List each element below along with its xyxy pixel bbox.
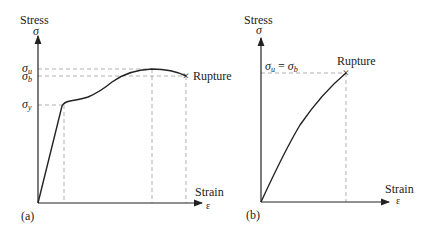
- sigma-u-equals-sigma-b-label: σu = σb: [265, 59, 298, 74]
- x-axis-symbol-a: ε: [206, 200, 210, 211]
- panel-a-tag: (a): [21, 209, 34, 223]
- rupture-label-b: Rupture: [337, 54, 376, 68]
- guide-lines-a: [38, 69, 186, 203]
- rupture-marker-b: ×: [343, 66, 350, 80]
- stress-strain-curve-a: [38, 69, 186, 203]
- sigma-y-label: σy: [22, 97, 32, 112]
- panel-b-tag: (b): [246, 208, 260, 222]
- guide-lines-b: [261, 73, 346, 202]
- rupture-marker-a: ×: [183, 69, 190, 83]
- x-axis-label-b: Strain: [385, 182, 414, 196]
- x-axis-label-a: Strain: [195, 185, 224, 199]
- x-axis-symbol-b: ε: [396, 195, 400, 206]
- rupture-label-a: Rupture: [193, 69, 232, 83]
- panel-a: × Rupture Stress σ Strain ε σu σb σy (a): [20, 13, 232, 223]
- stress-strain-curve-b: [261, 73, 346, 202]
- stress-strain-diagram: × Rupture Stress σ Strain ε σu σb σy (a)…: [0, 0, 433, 228]
- panel-b: × Rupture Stress σ Strain ε σu = σb (b): [244, 13, 414, 222]
